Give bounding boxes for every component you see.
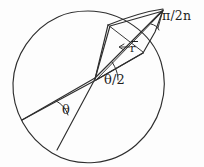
inscribed-angle-label: θ: [62, 103, 70, 116]
apex-angle-label: π/2n: [162, 10, 191, 23]
circle-outline: [13, 11, 164, 163]
diagram-canvas: [0, 0, 204, 167]
radius-vector-letter: r: [130, 41, 136, 55]
edge-upper-left-to-apex: [108, 9, 163, 25]
edge-apex-to-right: [143, 10, 163, 53]
radius-vector-label: r: [130, 41, 138, 54]
geometry-diagram: π/2n θ/2 θ r: [0, 0, 204, 167]
central-angle-label: θ/2: [104, 73, 125, 86]
